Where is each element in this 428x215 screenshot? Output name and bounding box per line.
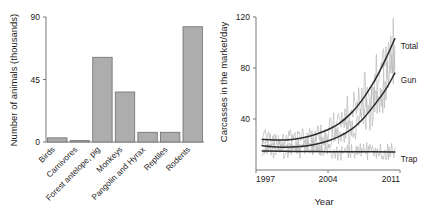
trend-series-total xyxy=(262,39,395,140)
bar-y-tick-label: 45 xyxy=(31,75,41,85)
bar-1 xyxy=(48,138,67,142)
bar-y-tick-labels: 04590 xyxy=(31,12,41,147)
series-label-gun: Gun xyxy=(401,76,417,85)
figure: Number of animals (thousands) 04590 Bird… xyxy=(0,0,428,215)
line-y-tick-label: 120 xyxy=(236,12,250,22)
line-x-tick-labels: 199720042011 xyxy=(256,174,400,184)
line-y-axis-title-group: Carcasses in the market/day xyxy=(218,22,229,143)
bar-category-labels: BirdsCarnivoresForest antelope, pigMonke… xyxy=(37,145,192,203)
line-raw-series-group xyxy=(262,18,395,160)
bar-y-tick-label: 90 xyxy=(31,12,41,22)
line-chart-panel: Carcasses in the market/day Year 4080120… xyxy=(214,0,428,215)
series-label-trap: Trap xyxy=(401,155,418,164)
line-chart-svg: Carcasses in the market/day Year 4080120… xyxy=(214,0,428,215)
bar-category-label: Birds xyxy=(37,145,57,165)
line-y-tick-label: 80 xyxy=(241,63,251,73)
line-series-labels: TotalGunTrap xyxy=(401,42,418,164)
bar-chart-svg: Number of animals (thousands) 04590 Bird… xyxy=(0,0,214,215)
bar-4 xyxy=(115,92,134,142)
line-y-axis-title: Carcasses in the market/day xyxy=(218,22,229,143)
line-x-tick-label: 2011 xyxy=(382,174,401,184)
bar-series xyxy=(48,27,203,142)
bar-chart-panel: Number of animals (thousands) 04590 Bird… xyxy=(0,0,214,215)
bar-5 xyxy=(138,132,157,142)
bar-y-tick-label: 0 xyxy=(35,137,40,147)
bar-6 xyxy=(160,132,179,142)
bar-2 xyxy=(70,141,89,142)
bar-7 xyxy=(183,27,202,142)
line-x-tick-label: 2004 xyxy=(319,174,338,184)
bar-y-axis-title-group: Number of animals (thousands) xyxy=(8,14,19,147)
line-x-axis-title: Year xyxy=(314,196,333,207)
bar-category-label: Rodents xyxy=(164,145,192,173)
line-y-tick-labels: 4080120 xyxy=(236,12,250,124)
line-y-tick-label: 40 xyxy=(241,114,251,124)
series-label-total: Total xyxy=(401,42,418,51)
bar-y-axis-title: Number of animals (thousands) xyxy=(8,14,19,147)
bar-3 xyxy=(93,57,112,142)
line-x-tick-label: 1997 xyxy=(256,174,275,184)
